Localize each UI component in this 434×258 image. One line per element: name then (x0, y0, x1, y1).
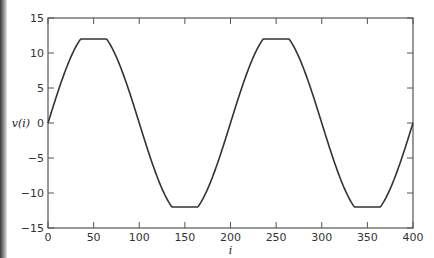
series-line-v (48, 39, 413, 207)
x-tick-label: 150 (174, 231, 195, 244)
y-tick-label: 15 (30, 12, 44, 25)
x-tick-label: 50 (87, 231, 101, 244)
x-tick-label: 100 (129, 231, 150, 244)
y-tick-label: 5 (37, 82, 44, 95)
y-tick-label: 10 (30, 47, 44, 60)
x-tick-label: 250 (266, 231, 287, 244)
x-axis-ticks: 050100150200250300350400 (45, 18, 424, 244)
line-chart: 050100150200250300350400 −15−10−5051015 … (0, 0, 434, 258)
y-axis-label: v(i) (12, 117, 30, 130)
x-tick-label: 0 (45, 231, 52, 244)
x-tick-label: 400 (403, 231, 424, 244)
y-tick-label: −10 (21, 187, 44, 200)
y-tick-label: 0 (37, 117, 44, 130)
x-tick-label: 300 (311, 231, 332, 244)
y-tick-label: −15 (21, 222, 44, 235)
x-axis-label: i (229, 244, 233, 257)
y-tick-label: −5 (28, 152, 44, 165)
x-tick-label: 200 (220, 231, 241, 244)
x-tick-label: 350 (357, 231, 378, 244)
y-axis-ticks: −15−10−5051015 (21, 12, 413, 235)
